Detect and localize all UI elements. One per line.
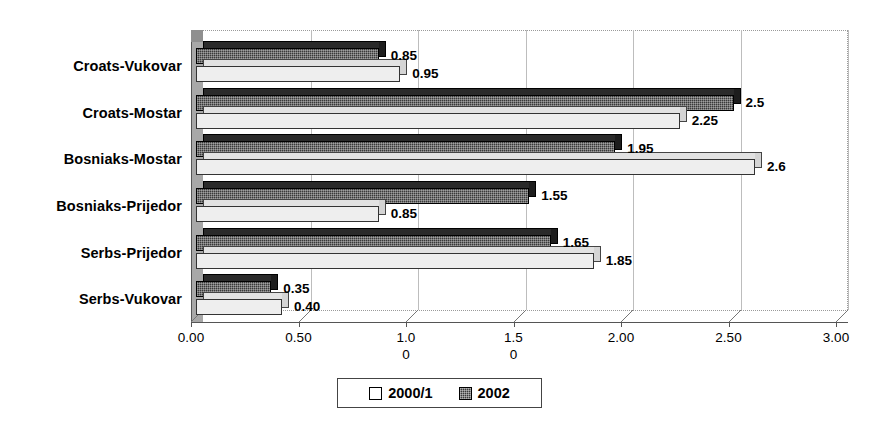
bar-value-label: 1.85 [606,254,632,268]
bar-series-layer [0,0,878,427]
bar-value-label: 1.65 [563,236,589,250]
bar-end-cap [755,152,762,168]
bar-top-face [203,199,386,206]
bar-top-face [203,181,536,188]
bar-top-face [203,152,762,159]
bar-end-cap [551,228,558,244]
bar-top-face [203,88,741,95]
legend-item-0: 2000/1 [369,385,432,401]
bar [196,253,594,269]
legend-swatch-light-icon [369,387,382,400]
bar-value-label: 0.85 [391,49,417,63]
bar-top-face [203,246,601,253]
legend-label-0: 2000/1 [388,385,432,401]
bar [196,113,680,129]
bar [196,299,282,315]
bar-end-cap [529,181,536,197]
bar-face [196,66,400,82]
bar-value-label: 0.95 [412,67,438,81]
chart-legend: 2000/1 2002 [337,378,542,408]
bar-end-cap [734,88,741,104]
bar-chart: 0.000.501.0 01.5 02.002.503.00 Serbs-Vuk… [0,0,878,427]
bar-face [196,113,680,129]
bar [196,206,379,222]
bar-value-label: 2.25 [692,114,718,128]
bar-top-face [203,292,289,299]
bar [196,159,755,175]
bar-end-cap [379,41,386,57]
bar-value-label: 0.40 [294,300,320,314]
bar-value-label: 0.35 [283,282,309,296]
legend-item-1: 2002 [459,385,510,401]
bar-value-label: 0.85 [391,207,417,221]
bar-top-face [203,106,687,113]
bar-top-face [203,274,278,281]
bar-end-cap [615,134,622,150]
bar [196,66,400,82]
bar-face [196,299,282,315]
bar-value-label: 1.95 [627,142,653,156]
bar-face [196,253,594,269]
bar-top-face [203,228,558,235]
bar-value-label: 2.6 [767,160,786,174]
legend-label-1: 2002 [478,385,510,401]
bar-top-face [203,59,407,66]
bar-face [196,159,755,175]
bar-top-face [203,41,386,48]
bar-value-label: 2.5 [746,96,765,110]
bar-end-cap [379,199,386,215]
bar-end-cap [271,274,278,290]
legend-swatch-dark-icon [459,387,472,400]
bar-value-label: 1.55 [541,189,567,203]
bar-end-cap [594,246,601,262]
bar-face [196,206,379,222]
bar-top-face [203,134,622,141]
bar-end-cap [680,106,687,122]
